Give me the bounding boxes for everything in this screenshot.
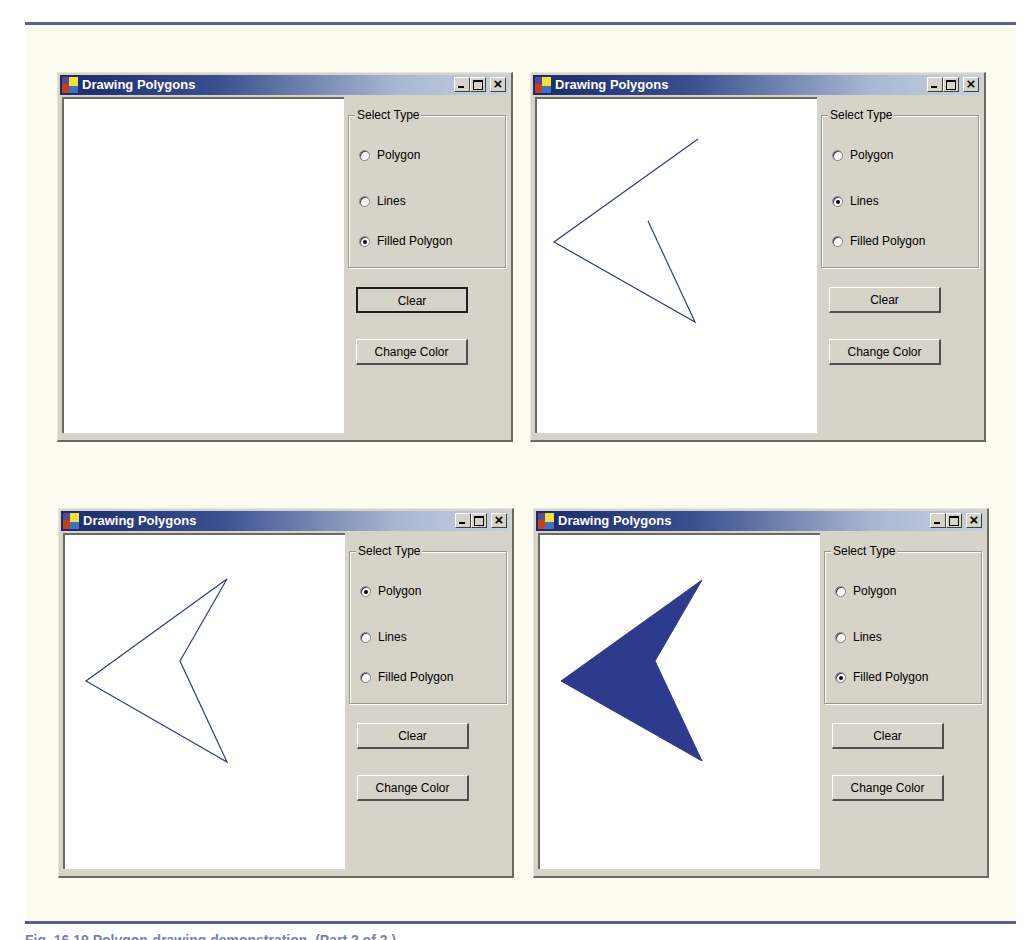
group-label: Select Type [355,107,421,123]
clear-button[interactable]: Clear [357,723,469,749]
maximize-icon[interactable] [470,77,486,92]
minimize-icon[interactable] [927,77,943,92]
title-bar[interactable]: Drawing Polygons [533,75,982,95]
drawing-canvas[interactable] [538,533,820,869]
radio-filled-polygon[interactable]: Filled Polygon [359,233,452,249]
window-title: Drawing Polygons [82,77,195,93]
drawing-canvas[interactable] [62,97,344,433]
select-type-group: Select Type Polygon Lines Filled Polygon [821,115,979,268]
drawing-canvas[interactable] [63,533,345,869]
radio-button-icon[interactable] [360,672,371,683]
clear-button[interactable]: Clear [829,287,941,313]
change-color-button[interactable]: Change Color [356,339,468,365]
bottom-rule [25,921,1016,924]
radio-button-icon[interactable] [360,586,371,597]
radio-label: Polygon [378,584,421,598]
radio-button-icon[interactable] [832,196,843,207]
select-type-group: Select Type Polygon Lines Filled Polygon [824,551,982,704]
radio-label: Filled Polygon [378,670,453,684]
radio-button-icon[interactable] [359,236,370,247]
clear-button[interactable]: Clear [356,287,468,313]
radio-button-icon[interactable] [359,150,370,161]
maximize-icon[interactable] [946,513,962,528]
title-bar[interactable]: Drawing Polygons [61,511,510,531]
group-label: Select Type [356,543,422,559]
radio-filled-polygon[interactable]: Filled Polygon [835,669,928,685]
radio-polygon[interactable]: Polygon [360,583,421,599]
maximize-icon[interactable] [471,513,487,528]
title-bar[interactable]: Drawing Polygons [60,75,509,95]
title-bar[interactable]: Drawing Polygons [536,511,985,531]
select-type-group: Select Type Polygon Lines Filled Polygon [349,551,507,704]
radio-lines[interactable]: Lines [835,629,882,645]
change-color-button[interactable]: Change Color [829,339,941,365]
close-icon[interactable] [963,77,979,92]
close-icon[interactable] [491,513,507,528]
window-empty: Drawing Polygons Select Type Polygon Lin… [57,72,513,442]
window-polygon: Drawing Polygons Select Type Polygon Lin… [58,508,514,878]
group-label: Select Type [831,543,897,559]
change-color-button[interactable]: Change Color [832,775,944,801]
app-icon [63,513,79,529]
radio-polygon[interactable]: Polygon [835,583,896,599]
minimize-icon[interactable] [455,513,471,528]
radio-button-icon[interactable] [835,672,846,683]
drawing-canvas[interactable] [535,97,817,433]
radio-label: Filled Polygon [853,670,928,684]
clear-button[interactable]: Clear [832,723,944,749]
radio-polygon[interactable]: Polygon [359,147,420,163]
window-title: Drawing Polygons [558,513,671,529]
radio-lines[interactable]: Lines [360,629,407,645]
maximize-icon[interactable] [943,77,959,92]
drawing-surface [64,99,344,433]
radio-filled-polygon[interactable]: Filled Polygon [832,233,925,249]
drawing-surface [540,535,820,869]
minimize-icon[interactable] [930,513,946,528]
figure-caption: Fig. 16.19 Polygon-drawing demonstration… [25,931,396,940]
radio-label: Polygon [377,148,420,162]
drawing-surface [537,99,817,433]
app-icon [538,513,554,529]
radio-label: Polygon [850,148,893,162]
radio-label: Lines [377,194,406,208]
lines-shape [554,139,698,322]
radio-label: Lines [378,630,407,644]
radio-label: Polygon [853,584,896,598]
app-icon [535,77,551,93]
drawing-surface [65,535,345,869]
group-label: Select Type [828,107,894,123]
filled-shape [561,580,702,761]
window-title: Drawing Polygons [83,513,196,529]
change-color-button[interactable]: Change Color [357,775,469,801]
radio-button-icon[interactable] [835,632,846,643]
radio-button-icon[interactable] [360,632,371,643]
radio-button-icon[interactable] [832,236,843,247]
radio-button-icon[interactable] [359,196,370,207]
radio-lines[interactable]: Lines [832,193,879,209]
radio-polygon[interactable]: Polygon [832,147,893,163]
polygon-shape [86,579,227,762]
radio-label: Filled Polygon [850,234,925,248]
select-type-group: Select Type Polygon Lines Filled Polygon [348,115,506,268]
app-icon [62,77,78,93]
window-lines: Drawing Polygons Select Type Polygon Lin… [530,72,986,442]
radio-label: Lines [853,630,882,644]
close-icon[interactable] [490,77,506,92]
radio-button-icon[interactable] [835,586,846,597]
window-filled-polygon: Drawing Polygons Select Type Polygon Lin… [533,508,989,878]
radio-label: Filled Polygon [377,234,452,248]
radio-filled-polygon[interactable]: Filled Polygon [360,669,453,685]
radio-button-icon[interactable] [832,150,843,161]
window-title: Drawing Polygons [555,77,668,93]
minimize-icon[interactable] [454,77,470,92]
close-icon[interactable] [966,513,982,528]
radio-label: Lines [850,194,879,208]
radio-lines[interactable]: Lines [359,193,406,209]
